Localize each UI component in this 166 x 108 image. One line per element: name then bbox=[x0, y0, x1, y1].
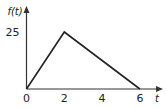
x-tick-label: 4 bbox=[99, 92, 106, 105]
triangle-pulse-chart: t f(t) 0246 25 bbox=[0, 0, 166, 108]
y-axis-label: f(t) bbox=[7, 6, 22, 17]
y-tick-labels: 25 bbox=[6, 26, 20, 39]
x-tick-label: 2 bbox=[61, 92, 68, 105]
series-group bbox=[27, 32, 140, 89]
y-tick-label: 25 bbox=[6, 26, 20, 39]
x-tick-labels: 0246 bbox=[23, 92, 143, 105]
x-tick-label: 6 bbox=[136, 92, 143, 105]
x-axis-arrow-icon bbox=[156, 86, 163, 92]
x-axis-label: t bbox=[155, 93, 160, 104]
series-line bbox=[27, 32, 140, 89]
y-axis: f(t) bbox=[7, 6, 29, 89]
y-axis-arrow-icon bbox=[24, 6, 30, 13]
x-tick-label: 0 bbox=[23, 92, 30, 105]
